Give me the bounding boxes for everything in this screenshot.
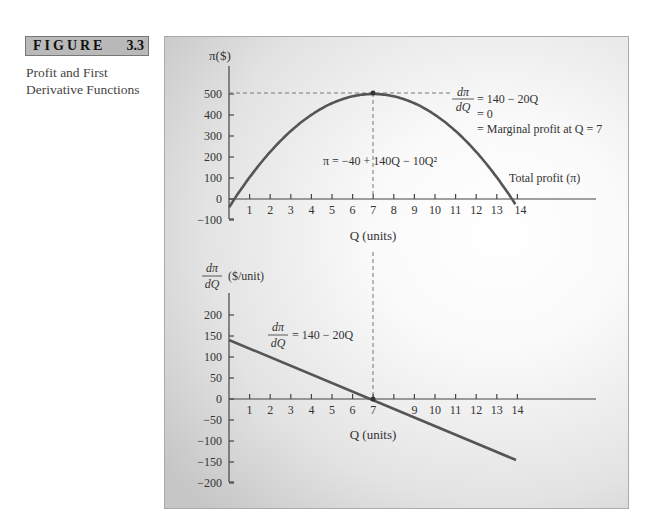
y-tick-label: 200 — [204, 308, 222, 322]
x-tick-label: 9 — [411, 403, 417, 417]
y-tick-label: 50 — [210, 371, 222, 385]
x-tick-label: 5 — [329, 403, 335, 417]
x-tick-label: 1 — [247, 403, 253, 417]
y-tick-label: 400 — [204, 108, 222, 122]
x-tick-label: 6 — [350, 403, 356, 417]
x-tick-label: 3 — [288, 203, 294, 217]
annot-deriv-den: dQ — [456, 100, 471, 114]
x-tick-label: 5 — [329, 203, 335, 217]
zero-crossing-point — [371, 397, 376, 402]
x-tick-label: 6 — [350, 203, 356, 217]
total-profit-label: Total profit (π) — [509, 171, 580, 185]
x-tick-label: 12 — [470, 403, 482, 417]
bottom-chart: dπ dQ ($/unit) 200150100500−50−100−150−2… — [197, 261, 596, 490]
x-tick-label: 11 — [450, 403, 462, 417]
top-y-axis-label: π($) — [209, 48, 231, 63]
total-profit-curve — [229, 94, 515, 207]
x-tick-label: 3 — [288, 403, 294, 417]
x-tick-label: 13 — [491, 403, 503, 417]
profit-equation: π = −40 + 140Q − 10Q² — [323, 154, 437, 168]
y-tick-label: 300 — [204, 129, 222, 143]
x-tick-label: 4 — [308, 203, 314, 217]
y-tick-label: −100 — [197, 434, 222, 448]
x-tick-label: 12 — [470, 203, 482, 217]
bottom-x-axis-label: Q (units) — [350, 427, 397, 442]
x-tick-label: 13 — [491, 203, 503, 217]
charts-svg: π($) 5004003002001000−100 12345678910111… — [0, 0, 654, 521]
y-tick-label: 100 — [204, 350, 222, 364]
x-tick-label: 9 — [411, 203, 417, 217]
annot-line-1: = 140 − 20Q — [477, 92, 539, 106]
bottom-ylabel-den: dQ — [205, 277, 220, 291]
y-tick-label: 0 — [216, 392, 222, 406]
bottom-eq-den: dQ — [271, 336, 286, 350]
x-tick-label: 14 — [514, 203, 526, 217]
annot-line-2: = 0 — [477, 107, 493, 121]
y-tick-label: 200 — [204, 150, 222, 164]
top-x-ticks: 1234567891011121314 — [247, 194, 527, 217]
max-point — [371, 91, 376, 96]
y-tick-label: −100 — [197, 213, 222, 227]
y-tick-label: 0 — [216, 192, 222, 206]
bottom-ylabel-num: dπ — [206, 261, 219, 275]
x-tick-label: 7 — [370, 203, 376, 217]
x-tick-label: 4 — [308, 403, 314, 417]
y-tick-label: −150 — [197, 455, 222, 469]
x-tick-label: 14 — [511, 403, 523, 417]
x-tick-label: 10 — [429, 203, 441, 217]
x-tick-label: 7 — [370, 403, 376, 417]
x-tick-label: 1 — [247, 203, 253, 217]
y-tick-label: 500 — [204, 87, 222, 101]
x-tick-label: 10 — [429, 403, 441, 417]
bottom-ylabel-unit: ($/unit) — [228, 269, 264, 283]
y-tick-label: 150 — [204, 329, 222, 343]
y-tick-label: −50 — [203, 413, 222, 427]
bottom-eq-rhs: = 140 − 20Q — [292, 328, 354, 342]
x-tick-label: 11 — [450, 203, 462, 217]
y-tick-label: 100 — [204, 171, 222, 185]
annot-deriv-num: dπ — [457, 85, 470, 99]
top-chart: π($) 5004003002001000−100 12345678910111… — [197, 48, 602, 243]
y-tick-label: −200 — [197, 476, 222, 490]
x-tick-label: 8 — [391, 203, 397, 217]
top-x-axis-label: Q (units) — [350, 228, 397, 243]
annot-line-3: = Marginal profit at Q = 7 — [477, 122, 602, 136]
x-tick-label: 2 — [267, 403, 273, 417]
bottom-eq-num: dπ — [272, 320, 285, 334]
x-tick-label: 2 — [267, 203, 273, 217]
